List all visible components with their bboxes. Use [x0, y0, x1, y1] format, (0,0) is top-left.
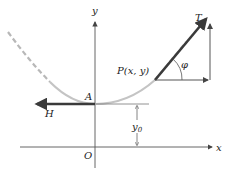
- origin-label: O: [84, 150, 92, 161]
- angle-phi-label: φ: [181, 59, 188, 70]
- catenary-diagram: y x O A P(x, y) T H φ y0: [0, 0, 230, 172]
- height-y0-sub: 0: [138, 126, 143, 134]
- point-p-label: P(x, y): [116, 65, 149, 76]
- height-y0-label: y0: [131, 121, 143, 134]
- catenary-curve-dashed-left: [8, 32, 50, 82]
- y-axis-label: y: [91, 5, 98, 16]
- point-a-label: A: [84, 91, 92, 102]
- catenary-curve-solid: [50, 80, 155, 104]
- force-h-label: H: [44, 108, 54, 119]
- x-axis-label: x: [216, 142, 222, 153]
- tension-label: T: [195, 12, 203, 23]
